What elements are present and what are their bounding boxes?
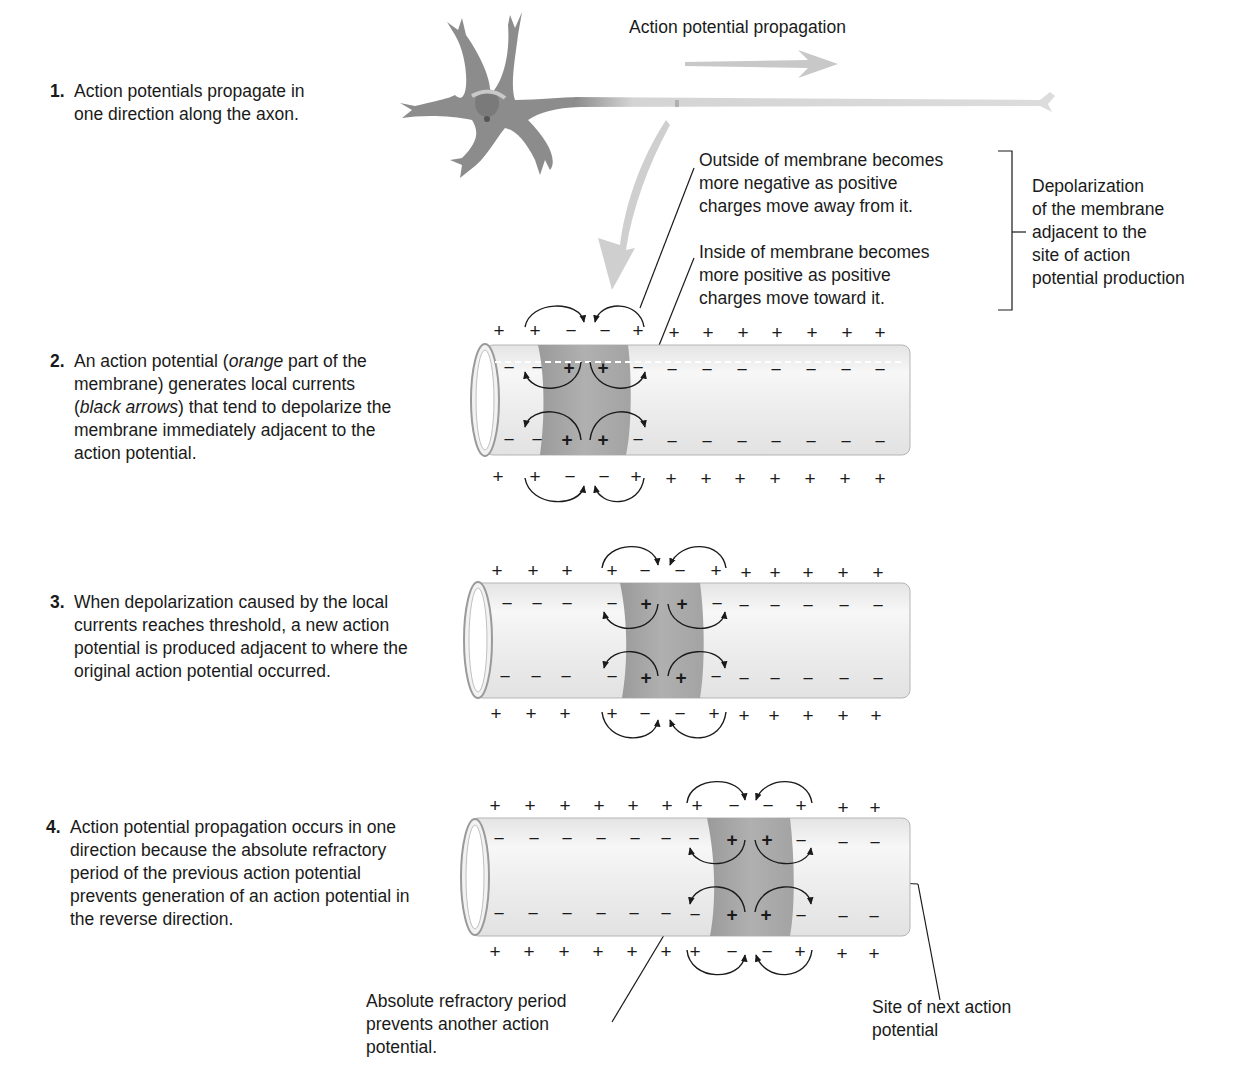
svg-text:+: + [640,593,651,614]
svg-text:+: + [760,904,771,925]
svg-text:+: + [771,322,782,343]
svg-text:+: + [708,703,719,724]
svg-text:−: − [598,466,609,487]
svg-text:+: + [837,705,848,726]
svg-text:−: − [869,832,880,853]
svg-text:−: − [762,795,773,816]
svg-text:+: + [524,795,535,816]
svg-text:+: + [632,320,643,341]
svg-text:−: − [660,828,671,849]
svg-text:+: + [606,703,617,724]
svg-text:+: + [529,466,540,487]
svg-text:−: − [770,431,781,452]
svg-text:−: − [531,429,542,450]
svg-text:−: − [493,903,504,924]
svg-text:+: + [558,941,569,962]
svg-text:+: + [869,797,880,818]
svg-text:−: − [837,906,848,927]
svg-text:+: + [769,562,780,583]
svg-text:+: + [523,941,534,962]
svg-text:−: − [701,431,712,452]
svg-text:+: + [872,562,883,583]
svg-text:+: + [665,468,676,489]
svg-text:−: − [874,431,885,452]
svg-text:−: − [688,828,699,849]
svg-text:+: + [626,941,637,962]
svg-text:+: + [606,560,617,581]
svg-text:−: − [711,593,722,614]
svg-text:−: − [872,668,883,689]
svg-text:−: − [632,429,643,450]
svg-text:−: − [564,466,575,487]
svg-text:+: + [490,703,501,724]
svg-text:+: + [836,943,847,964]
svg-text:−: − [838,595,849,616]
svg-text:−: − [838,668,849,689]
svg-text:+: + [768,705,779,726]
svg-text:−: − [503,357,514,378]
svg-text:−: − [674,703,685,724]
svg-text:−: − [868,906,879,927]
diagram-canvas: ++− −+ +++ ++++ −−+ +− −−− −−−− −−+ +− −… [0,0,1235,1083]
svg-text:+: + [561,429,572,450]
svg-text:+: + [561,560,572,581]
svg-text:−: − [628,903,639,924]
svg-text:+: + [493,320,504,341]
svg-text:−: − [531,357,542,378]
svg-text:+: + [804,468,815,489]
svg-text:−: − [769,668,780,689]
svg-text:−: − [738,595,749,616]
svg-text:+: + [841,322,852,343]
svg-text:−: − [840,359,851,380]
svg-text:+: + [726,904,737,925]
svg-text:+: + [738,705,749,726]
svg-text:+: + [489,795,500,816]
svg-text:−: − [530,666,541,687]
svg-text:+: + [640,667,651,688]
svg-text:−: − [639,560,650,581]
svg-text:−: − [802,595,813,616]
svg-text:+: + [563,357,574,378]
svg-text:+: + [630,466,641,487]
svg-text:+: + [489,941,500,962]
svg-text:−: − [660,903,671,924]
svg-text:+: + [837,797,848,818]
svg-text:−: − [561,903,572,924]
svg-text:+: + [675,667,686,688]
svg-text:−: − [503,429,514,450]
svg-text:−: − [666,431,677,452]
svg-text:−: − [738,668,749,689]
zoom-arrow-icon [598,120,670,290]
svg-text:+: + [529,320,540,341]
svg-text:+: + [491,560,502,581]
neuron-icon [400,12,1055,178]
svg-text:−: − [728,795,739,816]
svg-text:−: − [599,320,610,341]
svg-text:−: − [606,593,617,614]
svg-text:+: + [870,705,881,726]
svg-text:+: + [676,593,687,614]
svg-text:+: + [597,357,608,378]
svg-text:−: − [689,904,700,925]
svg-text:−: − [726,941,737,962]
svg-text:−: − [493,828,504,849]
svg-text:+: + [734,468,745,489]
svg-text:−: − [595,828,606,849]
svg-text:+: + [525,703,536,724]
svg-text:+: + [802,705,813,726]
svg-text:+: + [794,941,805,962]
svg-text:+: + [661,795,672,816]
svg-text:−: − [805,359,816,380]
svg-text:−: − [527,903,538,924]
svg-text:+: + [559,795,570,816]
svg-text:+: + [702,322,713,343]
svg-text:−: − [565,320,576,341]
svg-text:−: − [531,593,542,614]
svg-text:+: + [668,322,679,343]
svg-text:+: + [627,795,638,816]
svg-text:+: + [868,943,879,964]
svg-text:−: − [639,703,650,724]
svg-text:−: − [837,832,848,853]
svg-text:−: − [874,359,885,380]
svg-text:−: − [561,593,572,614]
